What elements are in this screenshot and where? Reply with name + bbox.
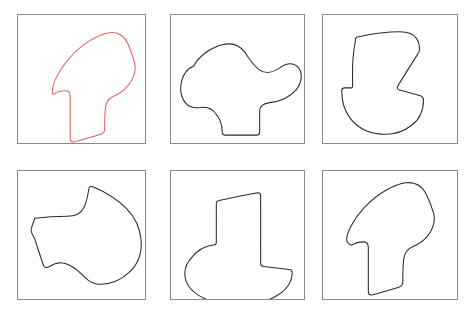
shape-outline [185,193,292,299]
shape-panel[interactable] [322,14,458,144]
shape-canvas [18,171,145,299]
shape-panel[interactable] [17,170,146,300]
shape-outline [52,33,135,142]
shape-outline [181,44,302,135]
shape-panel[interactable] [170,170,305,300]
shape-canvas [171,171,304,299]
shape-panel[interactable] [17,14,146,144]
shape-outline [31,186,141,284]
shape-canvas [171,15,304,143]
shape-canvas [323,15,457,143]
shape-panel[interactable] [170,14,305,144]
shape-panel[interactable] [322,170,458,300]
shape-canvas [323,171,457,299]
shape-canvas [18,15,145,143]
shape-outline [347,183,435,295]
shape-outline [342,32,424,135]
stimulus-grid [0,0,476,314]
